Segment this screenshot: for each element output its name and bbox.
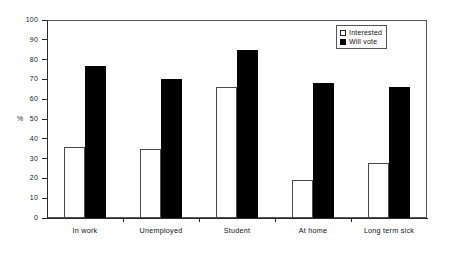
x-tick — [199, 218, 200, 222]
bar-interested — [64, 147, 85, 218]
x-category-label: Unemployed — [123, 227, 199, 235]
y-tick — [42, 119, 47, 120]
legend-item-will-vote: Will vote — [340, 37, 382, 46]
y-axis-title: % — [14, 115, 26, 122]
y-tick-label: 30 — [12, 155, 38, 162]
y-tick — [42, 138, 47, 139]
bar-will-vote — [85, 66, 106, 218]
y-tick — [42, 99, 47, 100]
y-tick-label: 90 — [12, 36, 38, 43]
bar-will-vote — [389, 87, 410, 218]
legend-label-will-vote: Will vote — [349, 38, 377, 46]
bar-interested — [140, 149, 161, 218]
bar-will-vote — [161, 79, 182, 218]
x-category-label: At home — [275, 227, 351, 235]
y-tick — [42, 218, 47, 219]
x-category-label: Student — [199, 227, 275, 235]
bar-interested — [216, 87, 237, 218]
x-tick — [351, 218, 352, 222]
chart-legend: Interested Will vote — [336, 25, 387, 49]
y-tick — [42, 178, 47, 179]
bar-will-vote — [237, 50, 258, 218]
x-category-label: In work — [47, 227, 123, 235]
black-square-icon — [340, 39, 346, 45]
y-tick-label: 0 — [12, 214, 38, 221]
y-tick — [42, 20, 47, 21]
legend-item-interested: Interested — [340, 28, 382, 37]
y-tick-label: 60 — [12, 95, 38, 102]
bar-interested — [368, 163, 389, 218]
x-tick — [275, 218, 276, 222]
y-tick-label: 20 — [12, 174, 38, 181]
y-tick — [42, 158, 47, 159]
bar-interested — [292, 180, 313, 218]
y-tick-label: 40 — [12, 135, 38, 142]
y-tick-label: 70 — [12, 75, 38, 82]
x-axis-line — [47, 218, 428, 219]
y-axis-line — [47, 20, 48, 218]
y-tick — [42, 39, 47, 40]
bar-chart: 0102030405060708090100 In workUnemployed… — [0, 0, 452, 253]
legend-label-interested: Interested — [349, 29, 382, 37]
white-square-icon — [340, 30, 346, 36]
bar-will-vote — [313, 83, 334, 218]
y-tick-label: 10 — [12, 194, 38, 201]
y-tick — [42, 198, 47, 199]
x-tick — [123, 218, 124, 222]
x-category-label: Long term sick — [351, 227, 427, 235]
y-tick-label: 100 — [12, 16, 38, 23]
y-tick-label: 80 — [12, 56, 38, 63]
y-tick — [42, 79, 47, 80]
y-tick — [42, 59, 47, 60]
